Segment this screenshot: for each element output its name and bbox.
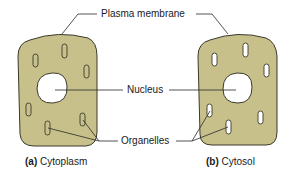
label-nucleus: Nucleus	[127, 84, 163, 96]
caption-a: (a) Cytoplasm	[25, 156, 87, 168]
caption-b-letter: (b)	[206, 156, 219, 167]
cell-a-organelle	[84, 65, 89, 78]
cell-b-organelle	[212, 53, 217, 66]
leader-plasma-membrane-left	[62, 14, 97, 34]
cell-a-organelle	[62, 44, 67, 58]
cell-a-organelle	[26, 103, 31, 116]
label-organelles: Organelles	[121, 135, 169, 147]
label-plasma-membrane: Plasma membrane	[101, 8, 185, 20]
cell-a-nucleus	[37, 73, 67, 103]
cell-b-organelle	[226, 120, 231, 134]
cell-b-nucleus	[223, 73, 252, 103]
cell-diagram: Plasma membrane Nucleus Organelles (a) C…	[0, 0, 292, 175]
caption-a-letter: (a)	[25, 156, 37, 167]
caption-b: (b) Cytosol	[206, 156, 255, 168]
cell-b-organelle	[264, 64, 269, 77]
cell-b-organelle	[243, 43, 248, 57]
cell-a-organelle	[80, 113, 85, 126]
cell-a-organelle	[33, 54, 38, 67]
leader-plasma-membrane-right	[196, 14, 228, 34]
caption-a-text: Cytoplasm	[40, 156, 87, 167]
caption-b-text: Cytosol	[222, 156, 255, 167]
cell-b-organelle	[258, 111, 263, 124]
